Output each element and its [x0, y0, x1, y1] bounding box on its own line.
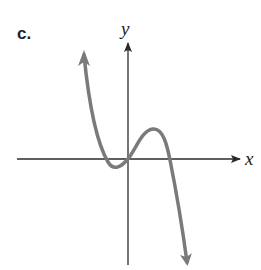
- y-axis-label: y: [119, 18, 130, 39]
- x-axis-label: x: [244, 148, 254, 169]
- part-label: c.: [17, 24, 31, 43]
- polynomial-graph: c. x y: [0, 0, 261, 270]
